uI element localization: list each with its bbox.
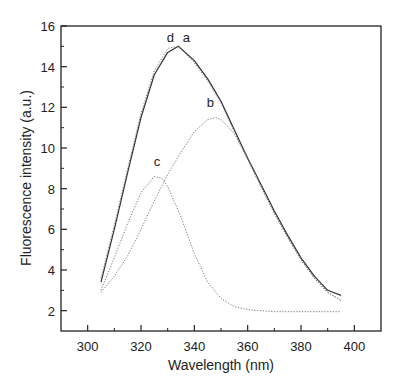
x-tick-label: 380 [290,339,312,354]
x-tick-label: 400 [343,339,365,354]
x-tick-label: 320 [130,339,152,354]
y-tick-label: 12 [41,100,55,115]
curve-label-a: a [183,30,191,45]
x-tick-label: 340 [183,339,205,354]
fluorescence-chart: adbc 300320340360380400246810121416 Wave… [0,0,401,390]
y-tick-label: 8 [48,182,55,197]
y-tick-label: 14 [41,60,55,75]
curve-label-c: c [154,154,161,169]
y-tick-label: 4 [48,263,55,278]
series-layer [101,46,341,311]
y-tick-label: 2 [48,304,55,319]
series-a-line [101,46,341,295]
axes: 300320340360380400246810121416 [41,19,381,354]
x-tick-label: 360 [237,339,259,354]
series-b-line [101,118,341,301]
y-tick-label: 16 [41,19,55,34]
x-axis-label: Wavelength (nm) [168,357,274,373]
series-c-line [101,177,341,312]
x-tick-label: 300 [77,339,99,354]
curve-label-d: d [167,30,174,45]
y-axis-label: Fluorescence intensity (a.u.) [18,90,34,266]
curve-label-b: b [207,95,214,110]
y-tick-label: 10 [41,141,55,156]
y-tick-label: 6 [48,222,55,237]
plot-frame [61,26,381,331]
